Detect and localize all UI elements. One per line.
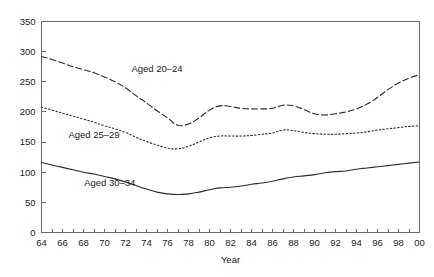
x-tick-label: 98 xyxy=(393,237,404,248)
x-tick-label: 96 xyxy=(372,237,383,248)
x-tick-label: 72 xyxy=(120,237,131,248)
x-axis-title: Year xyxy=(221,254,240,265)
series-line-2 xyxy=(42,107,420,149)
x-tick-label: 68 xyxy=(78,237,89,248)
y-tick-label: 200 xyxy=(20,106,36,117)
x-tick-label: 80 xyxy=(204,237,215,248)
series-label-2: Aged 25–29 xyxy=(68,129,119,140)
plot-frame xyxy=(42,22,420,233)
x-tick-label: 90 xyxy=(309,237,320,248)
y-tick-label: 150 xyxy=(20,136,36,147)
x-tick-label: 88 xyxy=(288,237,299,248)
chart-container: 0501001502002503003506466687072747678808… xyxy=(0,0,434,277)
x-tick-label: 84 xyxy=(246,237,257,248)
y-tick-label: 250 xyxy=(20,76,36,87)
x-tick-label: 74 xyxy=(141,237,152,248)
x-tick-label: 82 xyxy=(225,237,236,248)
x-tick-label: 92 xyxy=(330,237,341,248)
series-label-1: Aged 20–24 xyxy=(131,63,182,74)
series-label-3: Aged 30–34 xyxy=(84,177,135,188)
series-line-1 xyxy=(42,56,420,125)
x-tick-label: 76 xyxy=(162,237,173,248)
x-tick-label: 66 xyxy=(57,237,68,248)
y-tick-label: 300 xyxy=(20,46,36,57)
x-tick-label: 64 xyxy=(36,237,47,248)
y-tick-label: 100 xyxy=(20,167,36,178)
x-tick-label: 86 xyxy=(267,237,278,248)
x-tick-label: 00 xyxy=(414,237,425,248)
y-tick-label: 50 xyxy=(25,197,36,208)
x-tick-label: 70 xyxy=(99,237,110,248)
y-tick-label: 350 xyxy=(20,16,36,27)
y-tick-label: 0 xyxy=(30,227,35,238)
x-tick-label: 94 xyxy=(351,237,362,248)
x-tick-label: 78 xyxy=(183,237,194,248)
line-chart: 0501001502002503003506466687072747678808… xyxy=(0,0,434,277)
